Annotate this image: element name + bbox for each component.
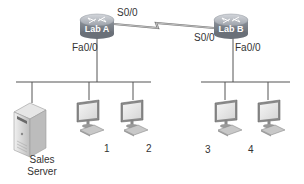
workstation-4-label: 4 [248, 144, 254, 155]
sales-server[interactable] [14, 103, 46, 157]
network-diagram: Lab A S0/0 Fa0/0 Lab B S0/0 Fa0/0 Sales … [0, 0, 304, 184]
lab-b-fa-label: Fa0/0 [235, 42, 261, 53]
workstation-2[interactable] [121, 100, 148, 137]
router-label: Lab A [85, 24, 110, 34]
server-label-line1: Sales [29, 154, 54, 165]
lab-a-serial-label: S0/0 [117, 7, 138, 18]
workstation-3[interactable] [215, 100, 242, 137]
workstation-2-label: 2 [146, 143, 152, 154]
router-lab-a[interactable]: Lab A [80, 14, 114, 39]
router-lab-b[interactable]: Lab B [214, 14, 248, 39]
server-label-line2: Server [27, 166, 57, 177]
workstation-1[interactable] [77, 100, 104, 137]
router-label: Lab B [218, 24, 244, 34]
lab-b-serial-label: S0/0 [194, 32, 215, 43]
workstation-4[interactable] [258, 100, 285, 137]
workstation-3-label: 3 [205, 144, 211, 155]
lab-a-fa-label: Fa0/0 [72, 42, 98, 53]
workstation-1-label: 1 [104, 143, 110, 154]
